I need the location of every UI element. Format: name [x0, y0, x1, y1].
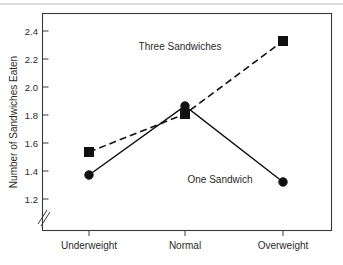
series-three-sandwiches [85, 37, 288, 157]
data-point-marker [279, 37, 288, 46]
x-axis-ticks [89, 231, 283, 237]
data-point-marker [85, 148, 94, 157]
x-category-label: Normal [169, 240, 201, 251]
x-category-label: Underweight [61, 240, 117, 251]
y-axis-title: Number of Sandwiches Eaten [8, 56, 19, 188]
line-chart-svg: 2.4 2.2 2.0 1.8 1.6 1.4 1.2 Number of Sa… [0, 0, 343, 265]
three-sandwiches-line [89, 41, 283, 152]
y-axis-tick-labels: 2.4 2.2 2.0 1.8 1.6 1.4 1.2 [25, 26, 38, 205]
y-tick-label: 1.2 [25, 194, 38, 205]
y-tick-label: 2.4 [25, 26, 38, 37]
y-tick-label: 1.8 [25, 110, 38, 121]
y-tick-label: 1.4 [25, 166, 38, 177]
x-axis-category-labels: Underweight Normal Overweight [61, 240, 309, 251]
y-tick-label: 2.0 [25, 82, 38, 93]
x-category-label: Overweight [258, 240, 309, 251]
data-point-marker [181, 102, 189, 110]
y-tick-label: 2.2 [25, 54, 38, 65]
annotation-one-sandwich: One Sandwich [187, 174, 252, 185]
data-point-marker [181, 110, 190, 119]
y-axis-ticks [43, 31, 49, 199]
y-axis-break-icon [38, 210, 50, 226]
data-point-marker [85, 171, 93, 179]
y-tick-label: 1.6 [25, 138, 38, 149]
annotation-three-sandwiches: Three Sandwiches [139, 41, 222, 52]
chart-figure: 2.4 2.2 2.0 1.8 1.6 1.4 1.2 Number of Sa… [0, 0, 343, 265]
data-point-marker [279, 178, 287, 186]
